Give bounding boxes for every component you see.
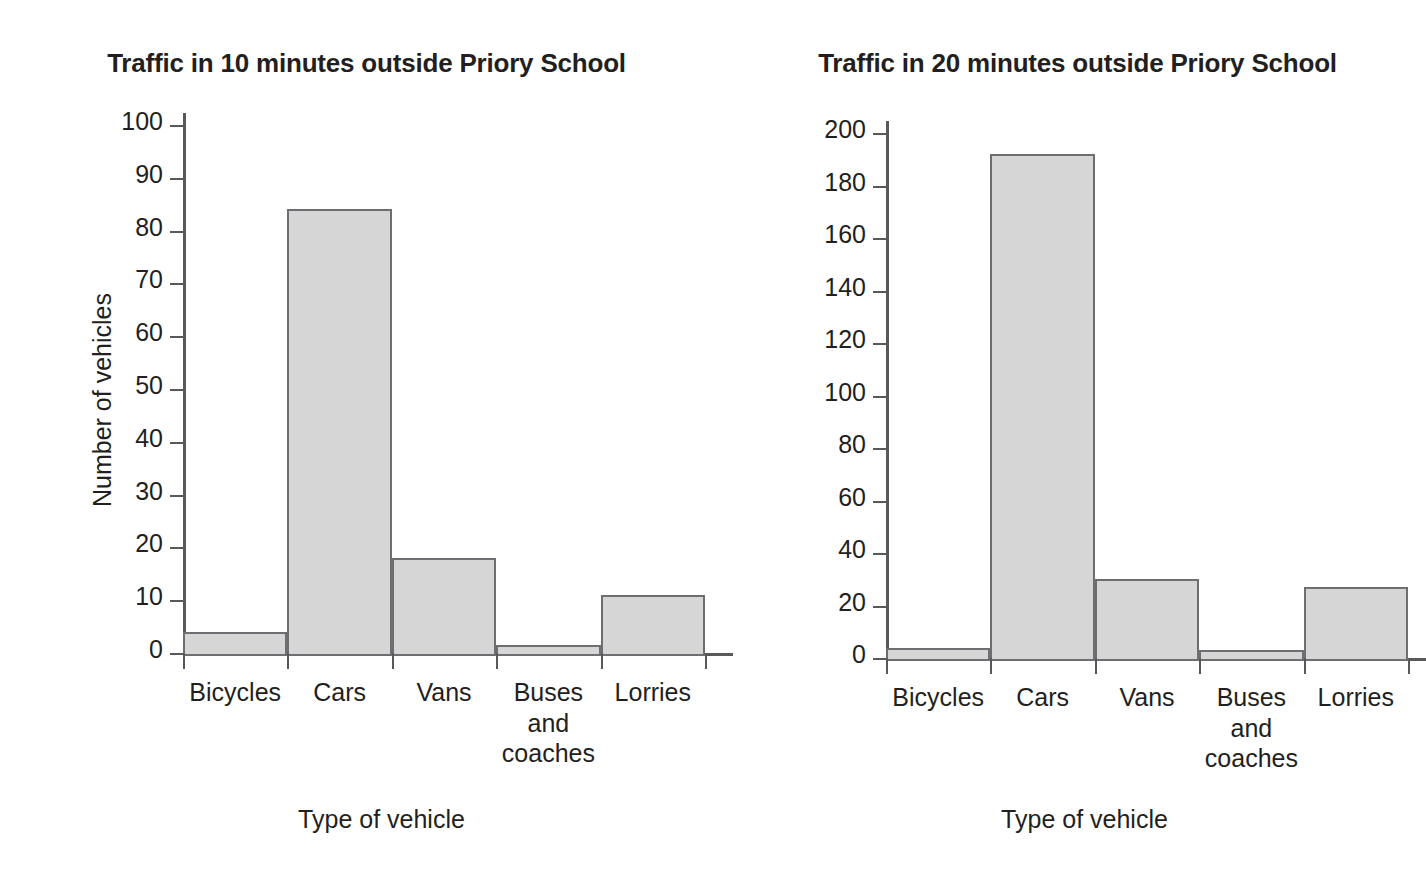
y-axis-tick-label: 40	[756, 535, 866, 564]
category-label-line: and	[458, 708, 638, 739]
y-axis-tick-label: 120	[756, 325, 866, 354]
y-axis-tick	[873, 343, 886, 345]
y-axis-tick	[170, 389, 183, 391]
y-axis-tick	[170, 600, 183, 602]
y-axis-tick	[170, 653, 183, 655]
y-axis-tick-label: 90	[53, 160, 163, 189]
bar	[601, 595, 705, 656]
y-axis-tick	[873, 553, 886, 555]
y-axis-tick-label: 70	[53, 265, 163, 294]
y-axis-tick	[170, 231, 183, 233]
y-axis-tick	[170, 442, 183, 444]
y-axis-tick-label: 80	[53, 213, 163, 242]
bar	[1199, 650, 1303, 661]
y-axis-tick	[873, 396, 886, 398]
y-axis-tick-label: 10	[53, 582, 163, 611]
x-axis-tick	[183, 653, 185, 669]
y-axis-tick-label: 40	[53, 424, 163, 453]
x-axis-title-10-minutes: Type of vehicle	[0, 805, 713, 834]
category-label-line: coaches	[1161, 743, 1341, 774]
y-axis-tick-label: 30	[53, 477, 163, 506]
y-axis-tick	[170, 495, 183, 497]
x-axis-tick	[601, 653, 603, 669]
x-axis-tick	[1199, 658, 1201, 674]
x-axis-tick	[1095, 658, 1097, 674]
plot-area-10-minutes: 0102030405060708090100BicyclesCarsVansBu…	[110, 0, 710, 880]
y-axis-tick-label: 140	[756, 273, 866, 302]
y-axis-tick	[873, 238, 886, 240]
x-axis-tick	[990, 658, 992, 674]
y-axis-tick-label: 20	[756, 588, 866, 617]
bar	[1095, 579, 1199, 661]
y-axis-tick	[170, 547, 183, 549]
y-axis-tick-label: 200	[756, 115, 866, 144]
x-axis-tick	[496, 653, 498, 669]
bar	[1304, 587, 1408, 661]
y-axis-line	[886, 121, 889, 658]
y-axis-tick	[873, 291, 886, 293]
y-axis-tick	[873, 606, 886, 608]
bar	[496, 645, 600, 656]
y-axis-line	[183, 113, 186, 653]
y-axis-tick-label: 0	[53, 635, 163, 664]
y-axis-tick-label: 100	[53, 107, 163, 136]
chart-panel-20-minutes: Traffic in 20 minutes outside Priory Sch…	[713, 0, 1426, 880]
y-axis-tick-label: 100	[756, 378, 866, 407]
bar	[990, 154, 1094, 661]
y-axis-tick-label: 50	[53, 371, 163, 400]
y-axis-tick	[873, 658, 886, 660]
bar	[287, 209, 391, 656]
plot-area-20-minutes: 020406080100120140160180200BicyclesCarsV…	[823, 0, 1423, 880]
y-axis-tick-label: 60	[53, 318, 163, 347]
bar	[886, 648, 990, 662]
bar	[183, 632, 287, 656]
y-axis-tick-label: 60	[756, 483, 866, 512]
y-axis-tick-label: 80	[756, 430, 866, 459]
chart-panel-10-minutes: Traffic in 10 minutes outside Priory Sch…	[0, 0, 713, 880]
y-axis-tick	[170, 336, 183, 338]
category-label-line: coaches	[458, 738, 638, 769]
charts-row: Traffic in 10 minutes outside Priory Sch…	[0, 0, 1426, 880]
x-axis-tick	[705, 653, 707, 669]
y-axis-tick-label: 0	[756, 640, 866, 669]
x-axis-title-20-minutes: Type of vehicle	[713, 805, 1426, 834]
y-axis-tick	[873, 448, 886, 450]
x-axis-tick	[1408, 658, 1410, 674]
y-axis-tick	[873, 501, 886, 503]
y-axis-tick	[170, 178, 183, 180]
x-axis-category-label: Lorries	[1266, 682, 1426, 713]
y-axis-tick-label: 160	[756, 220, 866, 249]
x-axis-tick	[1304, 658, 1306, 674]
x-axis-tick	[287, 653, 289, 669]
y-axis-tick-label: 180	[756, 168, 866, 197]
bar	[392, 558, 496, 656]
y-axis-tick	[873, 133, 886, 135]
y-axis-tick	[170, 283, 183, 285]
y-axis-tick	[873, 186, 886, 188]
y-axis-tick	[170, 125, 183, 127]
category-label-line: and	[1161, 713, 1341, 744]
y-axis-tick-label: 20	[53, 529, 163, 558]
category-label-line: Lorries	[1266, 682, 1426, 713]
x-axis-tick	[886, 658, 888, 674]
x-axis-tick	[392, 653, 394, 669]
